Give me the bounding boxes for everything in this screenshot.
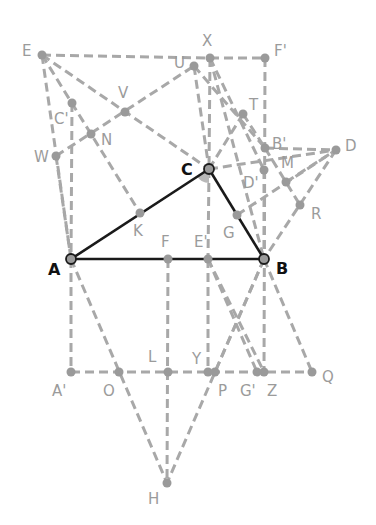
point-x (206, 54, 215, 63)
label-x: X (202, 34, 212, 49)
point-b-prime (261, 144, 270, 153)
point-e-prime (204, 255, 213, 264)
label-w: W (34, 150, 49, 165)
label-q: Q (322, 370, 334, 385)
point-m (282, 178, 291, 187)
label-l: L (148, 350, 156, 365)
point-c (204, 164, 214, 174)
construction-lines (42, 55, 336, 483)
dashed-segment-x-c (209, 58, 210, 169)
label-a: A (48, 262, 60, 278)
point-c-prime (68, 99, 77, 108)
point-q (308, 368, 317, 377)
point-a (66, 254, 76, 264)
label-k: K (133, 224, 143, 239)
label-e: E (22, 44, 31, 59)
point-r (296, 201, 305, 210)
label-u: U (174, 56, 185, 71)
label-v: V (118, 86, 128, 101)
label-y: Y (192, 352, 201, 367)
point-k (136, 209, 145, 218)
label-n: N (101, 133, 112, 148)
label-c-prime: C' (54, 112, 69, 127)
label-b-prime: B' (272, 137, 286, 152)
label-c: C (181, 162, 193, 178)
dashed-segment-b-p (215, 259, 264, 372)
point-a-prime (67, 368, 76, 377)
point-n (87, 130, 96, 139)
dashed-segment-t-b-prime (243, 114, 265, 148)
label-g-prime: G' (240, 384, 256, 399)
label-m: M (281, 156, 294, 171)
point-v (121, 108, 130, 117)
point-w (52, 152, 61, 161)
point-l (164, 368, 173, 377)
point-z (260, 368, 269, 377)
label-p: P (218, 384, 227, 399)
label-f: F (161, 235, 170, 250)
label-r: R (311, 207, 321, 222)
point-f-prime (261, 54, 270, 63)
point-o (115, 368, 124, 377)
point-u (190, 62, 199, 71)
label-e-prime: E' (194, 235, 208, 250)
label-f-prime: F' (274, 44, 287, 59)
point-f (164, 255, 173, 264)
label-o: O (103, 384, 115, 399)
point-b (259, 254, 269, 264)
label-b: B (276, 261, 288, 277)
point-p (211, 368, 220, 377)
dashed-segment-x-b (210, 58, 264, 259)
label-d: D (345, 139, 357, 154)
point-d (332, 146, 341, 155)
point-g (233, 211, 242, 220)
label-t: T (249, 98, 258, 113)
label-h: H (148, 492, 159, 507)
label-g: G (223, 226, 235, 241)
dashed-segment-c-prime-a (71, 103, 72, 259)
points (38, 51, 341, 488)
point-t (239, 110, 248, 119)
point-e (38, 51, 47, 60)
label-d-prime: D' (243, 176, 259, 191)
label-z: Z (267, 384, 277, 399)
point-h (163, 479, 172, 488)
point-d-prime (260, 166, 269, 175)
label-a-prime: A' (52, 384, 66, 399)
